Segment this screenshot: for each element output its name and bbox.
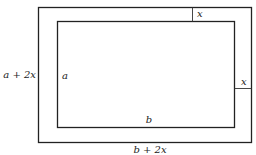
frame-diagram: x x a + 2x a b b + 2x [0, 0, 256, 155]
inner-width-label: b [146, 114, 152, 125]
inner-rectangle [58, 22, 235, 128]
outer-width-label: b + 2x [133, 144, 167, 155]
outer-height-label: a + 2x [3, 69, 36, 80]
top-border-label: x [197, 8, 203, 19]
inner-height-label: a [62, 70, 68, 81]
right-border-label: x [241, 76, 247, 87]
